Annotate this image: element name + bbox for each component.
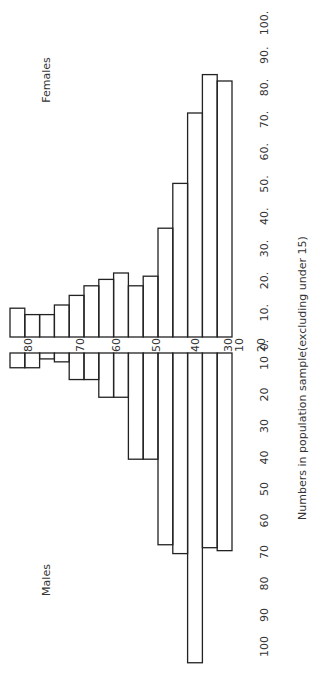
- female-bar: [25, 315, 40, 337]
- age-tick-label: 10: [233, 338, 246, 352]
- male-axis-tick: 20: [258, 388, 271, 402]
- male-bar: [188, 353, 203, 663]
- male-axis-tick: 30: [258, 419, 271, 433]
- male-axis-tick: 100: [258, 636, 271, 657]
- male-bar: [173, 353, 188, 554]
- female-bar: [54, 305, 69, 337]
- female-bars: [10, 75, 232, 337]
- female-bar: [69, 295, 84, 337]
- female-axis-tick: 10.: [258, 304, 271, 322]
- male-axis-tick: 80: [258, 577, 271, 591]
- female-bar: [158, 228, 173, 337]
- female-bar: [217, 81, 232, 337]
- female-bar: [188, 113, 203, 337]
- female-axis-tick: 80.: [258, 79, 271, 97]
- male-bar: [202, 353, 217, 548]
- female-bar: [173, 183, 188, 337]
- male-bar: [99, 353, 114, 397]
- female-axis-tick: 20.: [258, 272, 271, 290]
- female-axis-tick: 100.: [258, 11, 271, 36]
- male-bar: [128, 353, 143, 459]
- female-axis-tick: 0.: [258, 340, 271, 351]
- age-tick-label: 70: [74, 338, 87, 352]
- male-bar: [40, 353, 55, 359]
- population-pyramid-chart: 8070605040302010 0.10.20.30.40.50.60.70.…: [0, 0, 335, 692]
- age-tick-label: 40: [189, 338, 202, 352]
- x-axis-title: Numbers in population sample(excluding u…: [296, 236, 309, 520]
- male-bar: [84, 353, 99, 380]
- male-bar: [25, 353, 40, 368]
- male-bar: [54, 353, 69, 362]
- age-tick-label: 50: [150, 338, 163, 352]
- male-axis-tick: 50: [258, 482, 271, 496]
- female-bar: [128, 286, 143, 337]
- age-axis-labels: 8070605040302010: [22, 338, 268, 352]
- female-bar: [40, 315, 55, 337]
- male-bar: [143, 353, 158, 459]
- female-axis-tick: 90.: [258, 46, 271, 64]
- female-axis-tick: 70.: [258, 111, 271, 129]
- female-bar: [10, 308, 25, 337]
- female-axis-tick: 40.: [258, 207, 271, 225]
- male-bars: [10, 353, 232, 663]
- male-axis-tick: 70: [258, 545, 271, 559]
- female-bar: [114, 273, 129, 337]
- male-bar: [10, 353, 25, 368]
- male-axis-tick: 60: [258, 514, 271, 528]
- female-axis-tick: 60.: [258, 143, 271, 161]
- female-bar: [202, 75, 217, 337]
- male-bar: [158, 353, 173, 545]
- male-axis-ticks: 102030405060708090100: [258, 356, 271, 657]
- male-axis-tick: 90: [258, 608, 271, 622]
- male-bar: [114, 353, 129, 397]
- female-axis-tick: 30.: [258, 240, 271, 258]
- male-axis-tick: 10: [258, 356, 271, 370]
- female-bar: [99, 279, 114, 337]
- age-tick-label: 80: [22, 338, 35, 352]
- females-label: Females: [40, 57, 53, 103]
- male-bar: [69, 353, 84, 380]
- male-bar: [217, 353, 232, 551]
- female-bar: [143, 276, 158, 337]
- males-label: Males: [40, 564, 53, 596]
- female-bar: [84, 286, 99, 337]
- female-axis-tick: 50.: [258, 175, 271, 193]
- female-axis-ticks: 0.10.20.30.40.50.60.70.80.90.100.: [258, 11, 271, 351]
- age-tick-label: 60: [110, 338, 123, 352]
- male-axis-tick: 40: [258, 451, 271, 465]
